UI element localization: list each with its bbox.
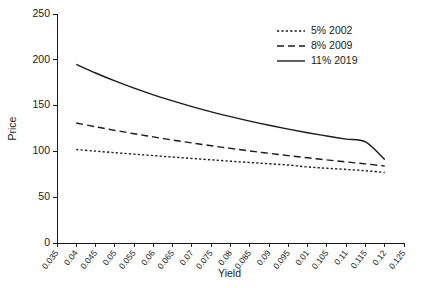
- y-tick-label: 200: [32, 53, 50, 65]
- series-line: [76, 123, 384, 166]
- legend-label: 11% 2019: [311, 54, 358, 66]
- x-axis-title: Yield: [218, 267, 241, 279]
- x-tick-label: 0.125: [387, 248, 408, 271]
- x-tick-label: 0.075: [194, 248, 215, 271]
- x-tick-label: 0.105: [309, 248, 330, 271]
- y-tick-label: 50: [38, 190, 50, 202]
- y-tick-label: 250: [32, 7, 50, 19]
- chart-canvas: 050100150200250 0.0350.040.0450.050.0550…: [0, 0, 421, 288]
- x-tick-label: 0.065: [155, 248, 176, 271]
- y-axis: 050100150200250: [32, 7, 57, 248]
- x-tick-label: 0.115: [348, 248, 369, 271]
- x-tick-label: 0.035: [40, 248, 61, 271]
- x-tick-label: 0.095: [271, 248, 292, 271]
- chart-legend: 5% 20028% 200911% 2019: [277, 24, 358, 66]
- x-tick-label: 0.11: [332, 248, 350, 267]
- y-axis-title: Price: [6, 116, 18, 140]
- y-tick-label: 150: [32, 98, 50, 110]
- legend-label: 5% 2002: [311, 24, 353, 36]
- bond-price-yield-chart: 050100150200250 0.0350.040.0450.050.0550…: [0, 0, 421, 288]
- series-layer: [76, 64, 384, 172]
- series-line: [76, 64, 384, 159]
- x-tick-label: 0.045: [78, 248, 99, 271]
- legend-label: 8% 2009: [311, 39, 353, 51]
- y-tick-label: 100: [32, 144, 50, 156]
- y-tick-label: 0: [44, 236, 50, 248]
- x-tick-label: 0.055: [117, 248, 138, 271]
